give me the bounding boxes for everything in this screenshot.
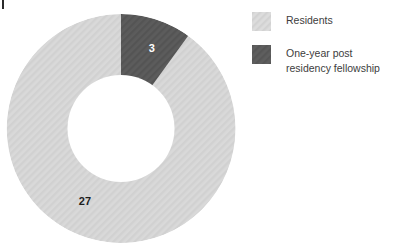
legend-label-fellowship: One-year post residency fellowship [286,45,396,75]
donut-chart-plot-area: 3 27 [0,0,250,252]
donut-chart-svg: 3 27 [0,0,250,252]
legend-label-residents: Residents [286,12,333,28]
donut-chart-figure: 3 27 Residents One-year post residency f… [0,0,399,252]
donut-slice-value-residents: 27 [79,195,92,207]
legend-item-fellowship[interactable]: One-year post residency fellowship [252,45,396,75]
donut-slice-value-fellowship: 3 [149,42,155,54]
legend-swatch-fellowship-icon [252,45,271,64]
chart-legend: Residents One-year post residency fellow… [252,12,396,89]
legend-item-residents[interactable]: Residents [252,12,396,31]
legend-swatch-residents-icon [252,12,271,31]
